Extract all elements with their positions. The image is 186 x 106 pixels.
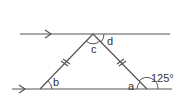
label-b: b [53, 76, 59, 88]
label-d: d [107, 35, 113, 47]
angle-b-arc [48, 81, 52, 89]
angle-a-arc [137, 82, 140, 89]
label-a: a [128, 80, 135, 92]
geometry-diagram: c d b a 125° [0, 0, 186, 106]
label-125-degrees: 125° [151, 72, 174, 84]
angle-d-arc [101, 34, 104, 42]
label-c: c [91, 43, 97, 55]
